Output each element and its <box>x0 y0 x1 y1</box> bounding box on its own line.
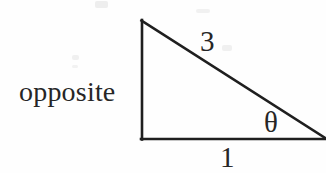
adjacent-length-label: 1 <box>220 143 235 172</box>
opposite-side-label: opposite <box>19 78 115 106</box>
theta-angle-label: θ <box>264 108 278 137</box>
hypotenuse-length-label: 3 <box>200 27 215 56</box>
trigonometry-figure: opposite 3 θ 1 <box>0 0 326 173</box>
hypotenuse-line <box>142 21 326 139</box>
